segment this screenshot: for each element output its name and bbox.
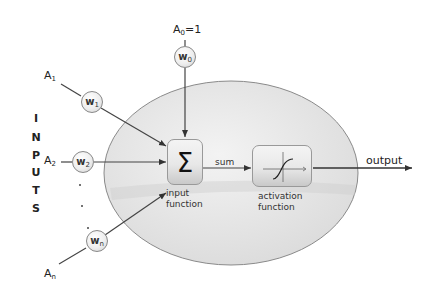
ellipsis-dot <box>79 184 81 186</box>
activation-function-label-line1: activation <box>258 191 303 202</box>
input-sub: 1 <box>52 75 56 83</box>
sigmoid-icon <box>253 146 313 188</box>
activation-function-label-line2: function <box>258 202 303 213</box>
weight-sub: 2 <box>85 161 89 169</box>
bias-input-value: =1 <box>185 23 201 36</box>
input-1-connection <box>61 84 81 96</box>
neuron-body <box>104 81 358 265</box>
input-letter: A <box>44 267 52 280</box>
input-function-label-line2: function <box>166 199 203 210</box>
activation-function-label: activation function <box>258 191 303 213</box>
diagram-canvas <box>0 0 432 294</box>
weight-2-node: w2 <box>72 151 94 173</box>
inputs-letter: T <box>31 184 41 197</box>
output-label: output <box>366 155 402 166</box>
weight-letter: w <box>178 51 187 62</box>
input-function-label: input function <box>166 188 203 210</box>
input-1-label: A1 <box>44 70 56 83</box>
bias-input-letter: A <box>173 23 181 36</box>
input-sub: n <box>52 273 56 281</box>
bias-weight-node: w0 <box>174 46 196 68</box>
weight-sub: n <box>99 240 103 248</box>
weight-letter: w <box>76 156 85 167</box>
activation-function-box <box>252 145 312 187</box>
input-2-label: A2 <box>44 155 56 168</box>
weight-n-node: wn <box>86 230 108 252</box>
input-n-connection <box>59 248 86 264</box>
weight-1-node: w1 <box>81 91 103 113</box>
weight-letter: w <box>85 96 94 107</box>
ellipsis-dot <box>87 227 89 229</box>
ellipsis-dot <box>81 205 83 207</box>
inputs-letter: U <box>31 166 41 179</box>
inputs-letter: N <box>31 131 41 144</box>
weight-sub: 0 <box>187 56 191 64</box>
weight-sub: 1 <box>94 101 98 109</box>
inputs-letter: I <box>31 112 41 125</box>
input-letter: A <box>44 154 52 167</box>
sum-label: sum <box>215 157 234 168</box>
input-sub: 2 <box>52 160 56 168</box>
inputs-letter: P <box>31 149 41 162</box>
bias-input-label: A0=1 <box>173 24 201 37</box>
input-n-label: An <box>44 268 56 281</box>
inputs-letter: S <box>31 202 41 215</box>
input-letter: A <box>44 69 52 82</box>
input-function-box: Σ <box>167 139 203 185</box>
input-function-label-line1: input <box>166 188 203 199</box>
sigma-icon: Σ <box>168 148 202 178</box>
